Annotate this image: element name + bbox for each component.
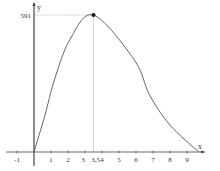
x-tick-label: 5	[117, 156, 121, 164]
x-tick-label: 7	[151, 156, 155, 164]
y-axis-arrow-icon	[32, 2, 35, 6]
x-tick-label: 4	[100, 156, 104, 164]
x-tick-label: 3,5	[91, 156, 100, 164]
x-tick-label: 9	[185, 156, 189, 164]
x-tick-label: 6	[134, 156, 138, 164]
function-plot: -11233,5456789 591 x y	[0, 0, 220, 171]
y-tick-label: 591	[21, 12, 32, 20]
x-axis-ticks: -11233,5456789	[14, 151, 189, 165]
x-tick-label: 2	[66, 156, 70, 164]
axes	[6, 2, 205, 166]
y-axis-label: y	[37, 3, 41, 12]
guide-lines	[34, 15, 94, 152]
x-tick-label: 3	[81, 156, 85, 164]
function-curve	[34, 15, 199, 152]
x-axis-label: x	[198, 142, 202, 151]
x-tick-label: -1	[14, 156, 20, 164]
maximum-point	[92, 13, 96, 17]
x-tick-label: 8	[168, 156, 172, 164]
x-tick-label: 1	[49, 156, 53, 164]
y-axis-ticks: 591	[21, 12, 32, 20]
